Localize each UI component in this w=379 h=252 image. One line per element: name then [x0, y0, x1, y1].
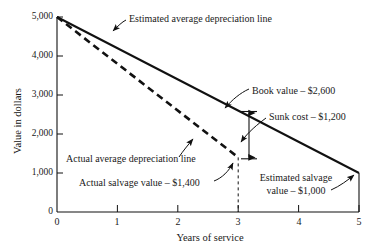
annotation-book-value: Book value – $2,600: [252, 85, 335, 96]
x-tick-label-3: 3: [226, 216, 250, 227]
annotation-estimated-line: Estimated average depreciation line: [129, 13, 272, 24]
leader-sunk-cost: [241, 118, 266, 142]
x-tick-label-4: 4: [287, 216, 311, 227]
annotation-sunk-cost: Sunk cost – $1,200: [269, 111, 346, 122]
actual-depreciation-line: [57, 17, 238, 157]
x-tick-label-0: 0: [45, 216, 69, 227]
x-tick-label-1: 1: [105, 216, 129, 227]
y-axis-ticks: [57, 17, 63, 173]
x-axis-title: Years of service: [160, 232, 260, 243]
leader-estimated-salvage: [331, 175, 354, 190]
annotation-actual-salvage-value: Actual salvage value – $1,400: [79, 177, 200, 188]
x-tick-label-5: 5: [347, 216, 371, 227]
y-tick-label-4000: 4,000: [15, 50, 53, 60]
y-tick-label-1000: 1,000: [15, 167, 53, 177]
chart-canvas: [0, 0, 379, 252]
y-axis-title: Value in dollars: [12, 88, 23, 154]
leader-actual-salvage: [214, 163, 233, 181]
x-tick-label-2: 2: [166, 216, 190, 227]
depreciation-chart: 5,000 4,000 3,000 2,000 1,000 0 Value in…: [0, 0, 379, 252]
y-tick-label-0: 0: [15, 206, 53, 216]
annotation-estimated-salvage-value-line1: Estimated salvage: [258, 172, 334, 183]
annotation-actual-line: Actual average depreciation line: [66, 153, 196, 164]
y-tick-label-5000: 5,000: [15, 11, 53, 21]
annotation-estimated-salvage-value-line2: value – $1,000: [258, 185, 334, 196]
leader-estimated-line: [113, 20, 126, 31]
